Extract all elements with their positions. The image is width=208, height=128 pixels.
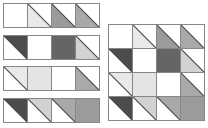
pattern-cell-full [75,98,100,123]
pattern-cell-triangle-upper-right [3,98,28,123]
strip-row-3 [3,66,100,91]
pattern-cell-empty [27,35,52,60]
pattern-cell-triangle-upper-right [51,98,76,123]
pattern-cell-triangle-upper-right [108,96,133,121]
pattern-cell-triangle-lower-left [75,66,100,91]
pattern-cell-triangle-lower-left [75,35,100,60]
grid-row-2 [108,48,205,73]
pattern-cell-triangle-lower-left [132,24,157,49]
pattern-cell-triangle-lower-left [180,72,205,97]
pattern-cell-triangle-upper-right [108,72,133,97]
pattern-cell-triangle-upper-right [3,66,28,91]
grid-row-3 [108,72,205,97]
pattern-cell-empty [156,72,181,97]
grid-row-1 [108,24,205,49]
pattern-cell-empty [108,24,133,49]
strip-row-1 [3,3,100,28]
pattern-cell-triangle-lower-left [156,24,181,49]
pattern-cell-triangle-lower-left [51,3,76,28]
pattern-cell-empty [51,66,76,91]
pattern-cell-triangle-upper-right [132,96,157,121]
pattern-cell-full [132,72,157,97]
assembled-grid [108,24,205,121]
pattern-cell-triangle-upper-right [27,98,52,123]
grid-row-4 [108,96,205,121]
pattern-cell-triangle-lower-left [180,24,205,49]
pattern-cell-full [180,96,205,121]
pattern-cell-empty [132,48,157,73]
pattern-cell-triangle-lower-left [180,48,205,73]
pattern-cell-triangle-upper-right [3,35,28,60]
strip-row-4 [3,98,100,123]
pattern-cell-triangle-upper-right [156,96,181,121]
pattern-cell-full [156,48,181,73]
pattern-cell-triangle-lower-left [27,3,52,28]
pattern-cell-triangle-lower-left [75,3,100,28]
pattern-cell-full [51,35,76,60]
pattern-cell-triangle-upper-right [108,48,133,73]
strip-row-2 [3,35,100,60]
pattern-cell-full [27,66,52,91]
pattern-cell-empty [3,3,28,28]
